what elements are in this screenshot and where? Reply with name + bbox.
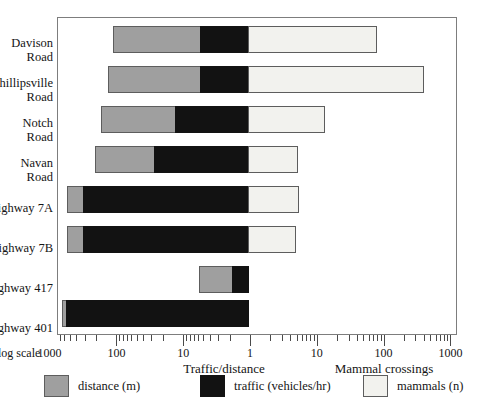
bar-segment-distance — [67, 186, 84, 213]
axis-tick-minor — [70, 335, 71, 341]
axis-tick-minor — [64, 335, 65, 341]
bar-segment-mammals — [248, 146, 298, 173]
axis-tick-minor — [430, 335, 431, 341]
axis-tick-minor — [230, 335, 231, 341]
axis-tick-minor — [363, 335, 364, 341]
axis-tick-minor — [369, 335, 370, 341]
axis-tick-minor — [143, 335, 144, 341]
legend-swatch-distance-icon — [44, 375, 69, 397]
x-axis-tick-labels: 1000100101101001000 — [0, 346, 483, 360]
axis-tick-minor — [163, 335, 164, 341]
bar-segment-traffic — [232, 266, 249, 293]
bar-row — [108, 66, 426, 93]
axis-tick-minor — [210, 335, 211, 341]
bar-segment-traffic — [66, 300, 249, 327]
bar-segment-distance — [113, 26, 201, 53]
axis-tick-major — [317, 335, 318, 346]
axis-tick-minor — [60, 335, 61, 341]
axis-tick-minor — [381, 335, 382, 341]
axis-tick-minor — [314, 335, 315, 341]
axis-tick-minor — [186, 335, 187, 341]
axis-label-right-100: 100 — [354, 346, 414, 361]
chart-container: Davison Road Phillipsville Road Notch Ro… — [0, 0, 483, 414]
axis-tick-minor — [151, 335, 152, 341]
legend-label-traffic: traffic (vehicles/hr) — [234, 379, 331, 394]
axis-tick-major — [384, 335, 385, 346]
axis-tick-minor — [310, 335, 311, 341]
axis-tick-major — [116, 335, 117, 346]
legend-label-distance: distance (m) — [78, 379, 140, 394]
bar-row — [101, 106, 326, 133]
bar-segment-distance — [199, 266, 233, 293]
legend-item-distance: distance (m) — [44, 375, 140, 397]
axis-tick-major — [450, 335, 451, 346]
axis-tick-minor — [444, 335, 445, 341]
bar-segment-traffic — [83, 186, 249, 213]
axis-label-right-10: 10 — [287, 346, 347, 361]
axis-tick-minor — [137, 335, 138, 341]
bar-segment-distance — [67, 226, 84, 253]
axis-tick-minor — [76, 335, 77, 341]
legend-swatch-traffic-icon — [200, 375, 225, 397]
axis-label-right-1000: 1000 — [420, 346, 480, 361]
bar-row — [199, 266, 250, 293]
axis-tick-minor — [440, 335, 441, 341]
bar-segment-mammals — [248, 186, 299, 213]
axis-tick-minor — [349, 335, 350, 341]
axis-tick-minor — [404, 335, 405, 341]
legend-label-mammals: mammals (n) — [397, 379, 463, 394]
axis-tick-minor — [85, 335, 86, 341]
axis-tick-minor — [337, 335, 338, 341]
bar-segment-distance — [101, 106, 175, 133]
axis-label-left-10: 10 — [153, 346, 213, 361]
bar-segment-traffic — [154, 146, 249, 173]
axis-tick-minor — [447, 335, 448, 341]
bar-segment-mammals — [248, 26, 377, 53]
axis-tick-minor — [357, 335, 358, 341]
axis-label-left-1000: 1000 — [20, 346, 80, 361]
bar-segment-traffic — [83, 226, 249, 253]
axis-tick-minor — [119, 335, 120, 341]
axis-tick-minor — [377, 335, 378, 341]
axis-tick-minor — [190, 335, 191, 341]
axis-tick-minor — [290, 335, 291, 341]
axis-label-pivot-1: 1 — [220, 346, 280, 361]
bar-segment-distance — [108, 66, 201, 93]
axis-tick-minor — [306, 335, 307, 341]
bar-row — [95, 146, 301, 173]
axis-tick-minor — [218, 335, 219, 341]
axis-tick-minor — [424, 335, 425, 341]
axis-tick-minor — [415, 335, 416, 341]
bar-segment-traffic — [200, 66, 249, 93]
bar-row — [67, 226, 298, 253]
bar-segment-distance — [95, 146, 156, 173]
axis-tick-minor — [127, 335, 128, 341]
legend-item-traffic: traffic (vehicles/hr) — [200, 375, 331, 397]
axis-tick-major — [250, 335, 251, 346]
axis-tick-major — [183, 335, 184, 346]
axis-tick-minor — [131, 335, 132, 341]
axis-tick-minor — [198, 335, 199, 341]
axis-tick-minor — [373, 335, 374, 341]
bar-segment-traffic — [200, 26, 249, 53]
axis-tick-minor — [282, 335, 283, 341]
axis-tick-minor — [297, 335, 298, 341]
bar-segment-mammals — [248, 226, 296, 253]
bar-segment-mammals — [248, 106, 325, 133]
bar-row — [62, 300, 250, 327]
axis-tick-minor — [96, 335, 97, 341]
axis-tick-minor — [270, 335, 271, 341]
bar-row — [67, 186, 302, 213]
axis-tick-minor — [203, 335, 204, 341]
chart-legend: distance (m) traffic (vehicles/hr) mamma… — [0, 375, 483, 409]
axis-tick-minor — [123, 335, 124, 341]
axis-tick-minor — [194, 335, 195, 341]
legend-swatch-mammals-icon — [363, 375, 388, 397]
legend-item-mammals: mammals (n) — [363, 375, 463, 397]
bar-row — [113, 26, 379, 53]
bar-segment-traffic — [175, 106, 249, 133]
axis-label-left-100: 100 — [86, 346, 146, 361]
axis-tick-minor — [302, 335, 303, 341]
bar-segment-mammals — [248, 66, 424, 93]
axis-tick-minor — [436, 335, 437, 341]
